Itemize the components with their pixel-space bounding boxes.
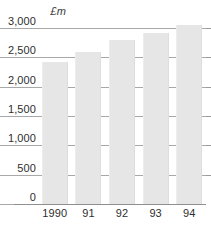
y-tick-label: 0 [0,191,38,204]
x-tick-label: 92 [105,207,139,219]
y-tick-mark-right [206,145,211,146]
y-tick-rule [0,145,38,146]
plot-area: 05001,0001,5002,0002,5003,000 [38,22,211,204]
x-axis-line [14,204,206,205]
y-tick-rule [0,175,38,176]
y-tick-label: 500 [0,162,38,175]
bar[interactable] [176,25,202,204]
bar[interactable] [75,52,101,204]
x-axis-labels: 199091929394 [38,207,211,227]
bar[interactable] [109,40,135,204]
x-tick-label: 1990 [38,207,72,219]
y-tick-label: 2,500 [0,44,38,57]
y-tick-label: 2,000 [0,74,38,87]
y-tick-rule [0,28,38,29]
bar-chart: £m 05001,0001,5002,0002,5003,000 1990919… [0,0,211,230]
y-tick-rule [0,57,38,58]
y-tick-rule [0,116,38,117]
x-tick-label: 94 [172,207,206,219]
y-tick-mark-right [206,87,211,88]
y-tick-mark-right [206,175,211,176]
y-tick-rule [0,87,38,88]
bar[interactable] [143,33,169,204]
y-tick-mark-right [206,28,211,29]
y-tick-mark-right [206,116,211,117]
x-tick-label: 91 [72,207,106,219]
y-tick-label: 1,500 [0,103,38,116]
y-tick-label: 1,000 [0,132,38,145]
y-tick-mark-right [206,57,211,58]
y-tick-label: 3,000 [0,15,38,28]
x-tick-label: 93 [139,207,173,219]
bar[interactable] [42,62,68,204]
